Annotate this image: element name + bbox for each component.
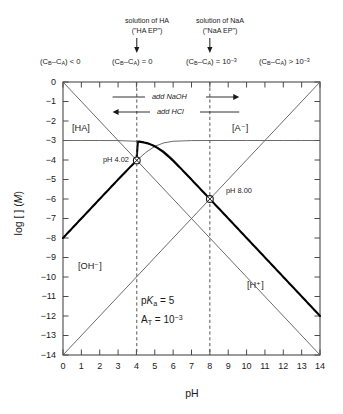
log-concentration-diagram: solution of HA ("HA EP") solution of NaA… bbox=[0, 0, 343, 414]
plot-svg bbox=[0, 0, 343, 414]
add-naoh-arrowhead bbox=[233, 94, 239, 100]
annotation-pointer-head-2 bbox=[207, 47, 212, 53]
series-curve-[HA] bbox=[63, 141, 320, 317]
add-hcl-arrowhead bbox=[113, 109, 119, 115]
series-bold-proton-condition bbox=[63, 141, 320, 315]
annotation-pointer-head-1 bbox=[134, 47, 139, 53]
series-curve-[A-] bbox=[63, 141, 320, 239]
